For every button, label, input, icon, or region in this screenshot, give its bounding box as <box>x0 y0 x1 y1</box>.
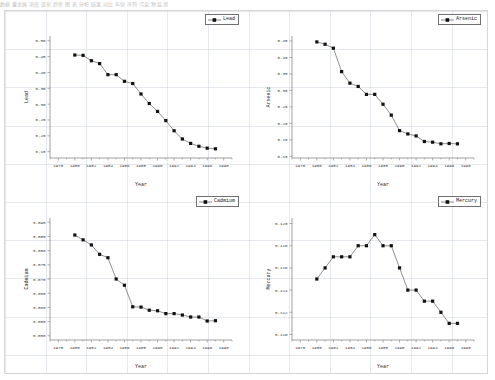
chart-lead: 0.500.450.400.350.300.250.200.1519781980… <box>4 10 246 192</box>
y-tick-label-cadmium: 0.060 <box>33 306 46 310</box>
x-tick-label-mercury: 1986 <box>361 346 372 350</box>
data-point-lead <box>148 102 151 105</box>
data-point-mercury <box>340 255 343 258</box>
x-axis-title-mercury: Year <box>377 364 389 370</box>
data-point-lead <box>214 147 217 150</box>
x-tick-label-lead: 1998 <box>219 164 230 168</box>
x-tick-label-mercury: 1978 <box>295 346 306 350</box>
data-point-arsenic <box>390 114 393 117</box>
legend-label-arsenic: Arsenic <box>456 16 477 23</box>
x-tick-label-lead: 1988 <box>136 164 147 168</box>
data-point-arsenic <box>348 82 351 85</box>
data-point-mercury <box>348 255 351 258</box>
y-tick-label-lead: 0.30 <box>35 103 46 107</box>
x-tick-label-arsenic: 1992 <box>411 164 422 168</box>
y-axis-title-cadmium: Cadmium <box>24 268 30 289</box>
x-tick-label-lead: 1982 <box>86 164 97 168</box>
series-line-arsenic <box>317 42 458 144</box>
x-tick-label-cadmium: 1998 <box>219 346 230 350</box>
y-tick-label-mercury: 0.114 <box>275 289 288 293</box>
data-point-lead <box>181 137 184 140</box>
y-tick-label-cadmium: 0.050 <box>33 334 46 338</box>
y-axis-title-lead: Lead <box>24 91 30 103</box>
x-tick-label-cadmium: 1978 <box>53 346 64 350</box>
x-tick-label-cadmium: 1992 <box>169 346 180 350</box>
x-tick-label-cadmium: 1994 <box>186 346 197 350</box>
data-point-lead <box>106 73 109 76</box>
y-tick-label-lead: 0.35 <box>35 87 46 91</box>
y-axis-title-arsenic: Arsenic <box>266 86 272 107</box>
x-tick-label-lead: 1996 <box>202 164 213 168</box>
y-tick-label-cadmium: 0.065 <box>33 292 46 296</box>
y-tick-label-cadmium: 0.090 <box>33 221 46 225</box>
x-tick-label-lead: 1990 <box>153 164 164 168</box>
data-point-mercury <box>414 288 417 291</box>
x-tick-label-mercury: 1982 <box>328 346 339 350</box>
data-point-mercury <box>357 244 360 247</box>
y-tick-label-lead: 0.25 <box>35 118 46 122</box>
data-point-cadmium <box>90 243 93 246</box>
chart-panel-lead: 0.500.450.400.350.300.250.200.1519781980… <box>4 10 246 192</box>
data-point-arsenic <box>323 43 326 46</box>
data-point-lead <box>98 62 101 65</box>
data-point-lead <box>189 142 192 145</box>
legend-cadmium[interactable]: Cadmium <box>196 196 239 207</box>
x-tick-label-arsenic: 1984 <box>345 164 356 168</box>
legend-lead[interactable]: Lead <box>205 14 239 25</box>
x-tick-label-lead: 1980 <box>70 164 81 168</box>
data-point-cadmium <box>197 315 200 318</box>
x-tick-label-lead: 1992 <box>169 164 180 168</box>
data-point-lead <box>81 54 84 57</box>
data-point-lead <box>197 145 200 148</box>
data-point-arsenic <box>357 85 360 88</box>
data-point-arsenic <box>365 93 368 96</box>
data-point-lead <box>115 73 118 76</box>
legend-label-mercury: Mercury <box>456 198 477 205</box>
chart-panel-mercury: 0.1200.1180.1160.1140.1120.1101978198019… <box>246 192 488 374</box>
data-point-mercury <box>448 322 451 325</box>
data-point-cadmium <box>139 305 142 308</box>
series-line-mercury <box>317 235 458 324</box>
legend-marker-icon <box>199 199 212 205</box>
data-point-lead <box>123 80 126 83</box>
legend-marker-icon <box>441 199 454 205</box>
data-point-lead <box>172 129 175 132</box>
data-point-mercury <box>381 244 384 247</box>
data-point-cadmium <box>214 319 217 322</box>
legend-mercury[interactable]: Mercury <box>438 196 481 207</box>
y-tick-label-lead: 0.40 <box>35 71 46 75</box>
y-tick-label-arsenic: 0.40 <box>277 56 288 60</box>
truncated-header-text: 数据 重金属 浓度 变化 趋势 图 表 分析 结果 对比 年份 序列 污染 物 … <box>0 0 495 9</box>
data-point-lead <box>90 59 93 62</box>
x-tick-label-arsenic: 1988 <box>378 164 389 168</box>
data-point-cadmium <box>181 313 184 316</box>
data-point-arsenic <box>431 141 434 144</box>
y-tick-label-arsenic: 0.10 <box>277 155 288 159</box>
data-point-arsenic <box>439 142 442 145</box>
x-tick-label-arsenic: 1982 <box>328 164 339 168</box>
legend-label-lead: Lead <box>223 16 235 23</box>
data-point-mercury <box>431 300 434 303</box>
data-point-cadmium <box>148 309 151 312</box>
data-point-mercury <box>423 300 426 303</box>
data-point-lead <box>131 82 134 85</box>
x-tick-label-arsenic: 1980 <box>312 164 323 168</box>
y-tick-label-lead: 0.50 <box>35 39 46 43</box>
x-tick-label-cadmium: 1984 <box>103 346 114 350</box>
x-tick-label-arsenic: 1986 <box>361 164 372 168</box>
legend-arsenic[interactable]: Arsenic <box>438 14 481 25</box>
x-tick-label-cadmium: 1990 <box>153 346 164 350</box>
x-tick-label-arsenic: 1978 <box>295 164 306 168</box>
data-point-arsenic <box>423 140 426 143</box>
data-point-arsenic <box>414 134 417 137</box>
chart-mercury: 0.1200.1180.1160.1140.1120.1101978198019… <box>246 192 488 374</box>
x-tick-label-mercury: 1990 <box>395 346 406 350</box>
x-axis-title-arsenic: Year <box>377 182 389 188</box>
x-tick-label-mercury: 1998 <box>461 346 472 350</box>
x-tick-label-mercury: 1996 <box>444 346 455 350</box>
x-axis-title-cadmium: Year <box>135 364 147 370</box>
data-point-arsenic <box>456 142 459 145</box>
data-point-lead <box>156 110 159 113</box>
x-tick-label-lead: 1978 <box>53 164 64 168</box>
x-tick-label-lead: 1984 <box>103 164 114 168</box>
